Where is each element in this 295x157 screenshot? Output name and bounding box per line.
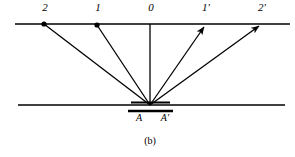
aperture-label-a: A: [136, 113, 142, 123]
aperture-label-a-prime: A′: [161, 113, 169, 123]
figure-container: 2 1 0 1′ 2′ A A′ (b): [0, 0, 295, 157]
order-dot-1: [94, 22, 99, 27]
order-label-2: 2: [42, 2, 48, 13]
order-label-1-prime: 1′: [202, 2, 210, 13]
ray-group: [44, 24, 259, 105]
ray-order-1: [97, 25, 150, 105]
order-dot-2: [41, 21, 46, 26]
order-label-2-prime: 2′: [258, 2, 266, 13]
ray-order-1-prime: [150, 27, 204, 105]
ray-order-2-prime: [150, 26, 259, 105]
ray-order-2: [44, 24, 150, 105]
order-label-1: 1: [95, 2, 101, 13]
order-label-0: 0: [148, 2, 154, 13]
diffraction-diagram: [0, 0, 295, 157]
figure-caption: (b): [144, 136, 156, 146]
